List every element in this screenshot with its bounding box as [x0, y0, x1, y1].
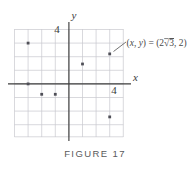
annotation-equals: ) = (2	[143, 38, 164, 49]
axes	[8, 22, 131, 141]
y-axis-tick-4: 4	[54, 23, 60, 35]
data-point	[40, 93, 43, 96]
data-point	[81, 63, 84, 66]
figure-container: y x 4 4 (x, y) = (2√3, 2) FIGURE 17	[0, 0, 190, 171]
x-axis-label: x	[132, 71, 138, 83]
svg-text:(x, y) = (2√3, 2): (x, y) = (2√3, 2)	[127, 38, 187, 49]
data-point	[108, 53, 111, 56]
data-point	[54, 93, 57, 96]
data-point	[27, 83, 30, 86]
data-point	[27, 42, 30, 45]
coordinate-plot: y x 4 4 (x, y) = (2√3, 2)	[0, 0, 190, 171]
x-axis-tick-4: 4	[111, 84, 117, 96]
figure-caption: FIGURE 17	[0, 148, 190, 159]
data-point	[108, 116, 111, 119]
y-axis-label: y	[71, 9, 77, 21]
point-annotation: (x, y) = (2√3, 2)	[127, 38, 187, 49]
annotation-suffix: , 2)	[174, 38, 187, 49]
